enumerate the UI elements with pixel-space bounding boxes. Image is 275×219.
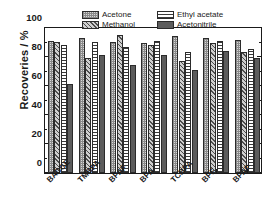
legend-entry: Methanol [82,20,135,29]
legend-label: Acetone [102,10,131,19]
legend-label: Methanol [102,20,135,29]
bar [141,43,147,173]
y-tick-label: 60 [31,70,42,81]
bar [110,42,116,173]
plot-area: 020406080100 [44,27,262,174]
bar [79,38,85,173]
y-axis-title: Recoveries / % [18,5,30,135]
bar [185,52,191,173]
legend-swatch-icon [157,11,174,19]
bar [54,42,60,173]
bar [223,51,229,173]
bar [241,52,247,173]
bar [130,65,136,173]
bar [117,35,123,173]
bar [148,45,154,173]
bar [161,55,167,173]
y-tick-label: 40 [31,99,42,110]
bar [48,41,54,173]
bar [92,42,98,173]
y-tick-label: 0 [37,157,42,168]
chart-legend: AcetoneEthyl acetateMethanolAcetonitrile [82,10,223,29]
bar-group [76,28,107,173]
bar [61,45,67,173]
bar-group [107,28,138,173]
legend-swatch-icon [82,11,99,19]
legend-entry: Acetone [82,10,135,19]
bar [248,49,254,173]
legend-label: Acetonitrile [177,20,217,29]
legend-swatch-icon [157,21,174,29]
recoveries-bar-chart: Recoveries / % 020406080100 BADGETMBPABP… [0,0,275,219]
bar [192,70,198,173]
bar-group [138,28,169,173]
bar [123,47,129,173]
bar-group [170,28,201,173]
bar [254,58,260,173]
bar [85,58,91,173]
bar [154,41,160,173]
bar-group [45,28,76,173]
bar [99,55,105,173]
bar [210,43,216,173]
bar-group [232,28,263,173]
legend-label: Ethyl acetate [177,10,223,19]
bar [235,40,241,173]
legend-entry: Acetonitrile [157,20,223,29]
bar [203,38,209,173]
bar [179,61,185,173]
bar [217,41,223,173]
legend-swatch-icon [82,21,99,29]
bar [172,36,178,173]
y-tick-label: 20 [31,128,42,139]
legend-entry: Ethyl acetate [157,10,223,19]
bar-group [201,28,232,173]
y-tick-label: 80 [31,41,42,52]
y-tick-label: 100 [26,12,42,23]
